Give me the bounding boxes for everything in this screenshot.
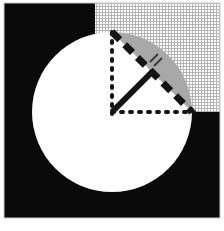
diagram-plate	[4, 3, 220, 218]
geometry-figure-container	[0, 0, 224, 231]
geometry-diagram	[0, 0, 224, 231]
